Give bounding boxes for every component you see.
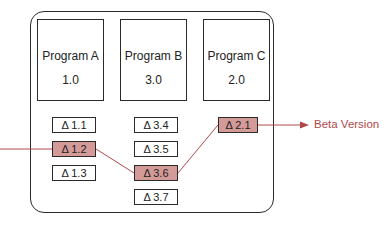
path-line-1 <box>96 149 134 173</box>
delta-3-6: Δ 3.6 <box>134 165 178 181</box>
connector-lines <box>0 0 388 226</box>
delta-3-4: Δ 3.4 <box>134 117 178 133</box>
delta-1-2: Δ 1.2 <box>52 141 96 157</box>
delta-1-3: Δ 1.3 <box>52 165 96 181</box>
delta-3-7: Δ 3.7 <box>134 189 178 205</box>
path-line-2 <box>178 125 218 173</box>
beta-version-label: Beta Version <box>314 118 379 130</box>
delta-2-1: Δ 2.1 <box>218 117 258 133</box>
delta-1-1: Δ 1.1 <box>52 117 96 133</box>
delta-3-5: Δ 3.5 <box>134 141 178 157</box>
arrow-head-icon <box>300 122 309 129</box>
